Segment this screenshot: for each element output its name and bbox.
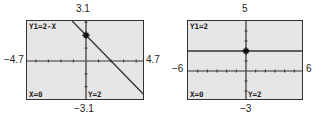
- right-trace-x: X=0: [190, 91, 204, 99]
- right-ymin-label: −3: [240, 104, 251, 114]
- left-trace-y: Y=2: [88, 91, 102, 99]
- right-trace-y: Y=2: [248, 91, 262, 99]
- right-xmin-label: −6: [172, 64, 183, 74]
- left-xmin-label: −4.7: [4, 55, 24, 65]
- right-trace-cursor: [242, 47, 250, 55]
- left-graph-panel: 3.1 −4.7 4.7 −3.1: [0, 0, 160, 120]
- left-equation-label: Y1=2-X: [29, 23, 56, 31]
- left-graph-plot: [27, 21, 144, 100]
- right-xmax-label: 6: [306, 64, 312, 74]
- left-calculator-screen: Y1=2-X X=0 Y=2: [26, 20, 144, 100]
- right-ymax-label: 5: [242, 4, 248, 14]
- left-ymax-label: 3.1: [76, 4, 90, 14]
- right-equation-label: Y1=2: [190, 23, 208, 31]
- left-function-line: [72, 21, 144, 96]
- right-calculator-screen: Y1=2 X=0 Y=2: [187, 20, 303, 100]
- right-graph-plot: [188, 21, 303, 100]
- left-ymin-label: −3.1: [74, 104, 94, 114]
- left-xmax-label: 4.7: [146, 55, 160, 65]
- left-trace-x: X=0: [29, 91, 43, 99]
- right-graph-panel: 5 −6 6 −3: [160, 0, 315, 120]
